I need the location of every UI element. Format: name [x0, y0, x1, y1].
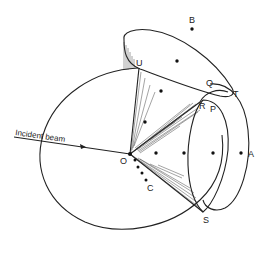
beam-arrowhead	[80, 144, 86, 149]
point-O	[128, 152, 132, 156]
point-upper-center	[175, 59, 178, 62]
point-C-1	[134, 159, 137, 162]
label-U: U	[136, 58, 143, 68]
label-Q: Q	[206, 78, 213, 88]
cone-hatching-upper	[131, 72, 200, 153]
incident-beam-line	[14, 137, 130, 154]
label-A: A	[248, 149, 254, 159]
label-R: R	[199, 101, 206, 111]
point-C-4	[145, 179, 148, 182]
label-P: P	[210, 104, 216, 114]
point-cone-upper	[159, 89, 162, 92]
ewald-diagram: Incident beam O A B C P Q R S T U	[0, 0, 268, 268]
point-C-3	[141, 172, 144, 175]
point-B	[190, 27, 193, 30]
diagram-canvas: Incident beam O A B C P Q R S T U	[0, 0, 268, 268]
point-row-3	[211, 151, 214, 154]
point-C-2	[137, 166, 140, 169]
incident-beam-label: Incident beam	[15, 128, 66, 144]
label-S: S	[203, 215, 209, 225]
cone-edge-OU	[130, 68, 139, 154]
point-row-1	[154, 151, 157, 154]
label-C: C	[147, 183, 154, 193]
label-T: T	[233, 89, 239, 99]
right-circle	[203, 84, 249, 210]
point-cone-mid	[143, 120, 146, 123]
point-row-2	[182, 151, 185, 154]
label-O: O	[120, 156, 127, 166]
point-A	[239, 151, 242, 154]
upper-cone-hatching	[124, 42, 134, 70]
label-B: B	[189, 15, 195, 25]
